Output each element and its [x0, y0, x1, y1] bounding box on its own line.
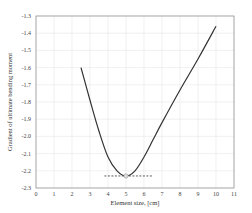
y-axis-label: Gradient of ultimate bending moment — [6, 53, 13, 151]
y-tick-label: -1.7 — [22, 82, 32, 88]
x-tick-label: 3 — [89, 191, 92, 197]
grid-lines — [36, 16, 234, 188]
y-tick-label: -1.5 — [22, 47, 32, 53]
minimum-marker — [124, 174, 128, 178]
y-tick-label: -1.6 — [22, 65, 32, 71]
x-tick-label: 8 — [179, 191, 182, 197]
x-tick-label: 1 — [53, 191, 56, 197]
x-tick-label: 2 — [71, 191, 74, 197]
y-tick-label: -2.1 — [22, 151, 32, 157]
y-tick-label: -2.2 — [22, 168, 32, 174]
line-chart: 01234567891011 -1.3-1.4-1.5-1.6-1.7-1.8-… — [0, 0, 252, 213]
x-tick-label: 7 — [161, 191, 164, 197]
y-tick-label: -1.4 — [22, 30, 32, 36]
x-tick-label: 11 — [231, 191, 237, 197]
x-axis-label: Element size, [cm] — [111, 199, 160, 207]
y-tick-label: -1.3 — [22, 13, 32, 19]
x-tick-label: 6 — [143, 191, 146, 197]
x-tick-label: 4 — [107, 191, 110, 197]
x-tick-label: 5 — [125, 191, 128, 197]
y-tick-label: -2.3 — [22, 185, 32, 191]
y-tick-label: -1.8 — [22, 99, 32, 105]
x-tick-label: 0 — [35, 191, 38, 197]
x-tick-label: 9 — [197, 191, 200, 197]
y-tick-label: -2.0 — [22, 133, 32, 139]
x-axis-ticks: 01234567891011 — [35, 191, 237, 197]
y-axis-ticks: -1.3-1.4-1.5-1.6-1.7-1.8-1.9-2.0-2.1-2.2… — [22, 13, 32, 191]
x-tick-label: 10 — [213, 191, 219, 197]
y-tick-label: -1.9 — [22, 116, 32, 122]
